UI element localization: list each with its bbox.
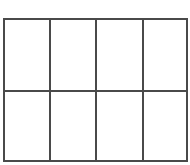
grid-diagram [3,18,188,162]
grid-row-divider [5,90,186,92]
